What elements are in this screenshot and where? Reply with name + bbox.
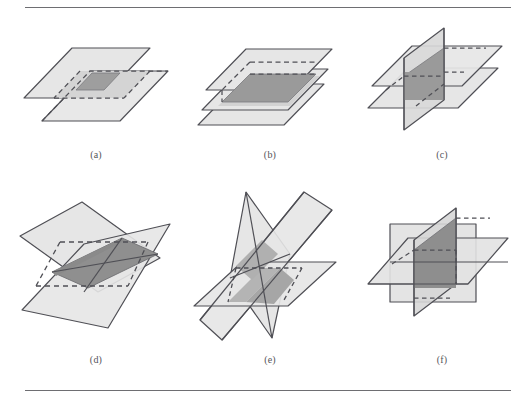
- figure-panel-c: (c): [356, 18, 528, 168]
- figure-panel-e: (e): [184, 188, 356, 373]
- top-horizontal-rule: [25, 7, 511, 8]
- figure-panel-a: (a): [8, 18, 184, 168]
- overlap-dark-region-f2: [414, 256, 456, 288]
- three-steeply-tilted-planes-diagram: [184, 188, 356, 350]
- three-perpendicular-planes-diagram: [356, 188, 528, 350]
- bottom-horizontal-rule: [25, 390, 511, 391]
- figure-panel-f: (f): [356, 188, 528, 373]
- caption-d: (d): [8, 354, 184, 365]
- caption-b: (b): [184, 149, 356, 160]
- caption-c: (c): [356, 149, 528, 160]
- two-horizontal-one-vertical-planes-diagram: [356, 18, 528, 148]
- figure-panel-b: (b): [184, 18, 356, 168]
- two-offset-parallel-planes-diagram: [8, 18, 184, 148]
- caption-e: (e): [184, 354, 356, 365]
- three-stacked-parallel-planes-diagram: [184, 18, 356, 148]
- two-tilted-crossing-planes-diagram: [8, 188, 184, 350]
- figure-panel-d: (d): [8, 188, 184, 373]
- caption-f: (f): [356, 354, 528, 365]
- caption-a: (a): [8, 149, 184, 160]
